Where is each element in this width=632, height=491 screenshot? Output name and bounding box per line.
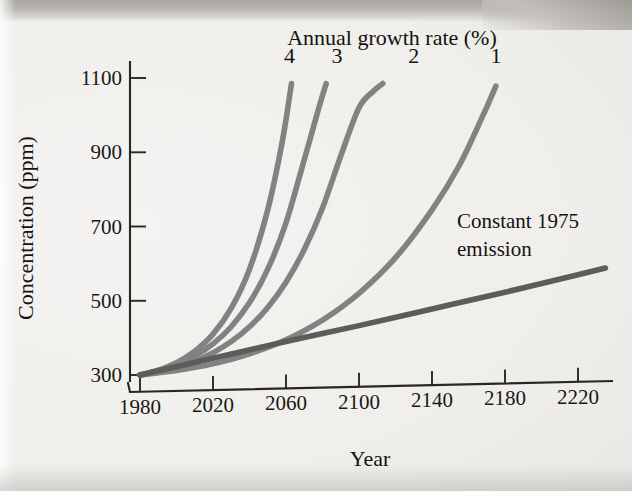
legend-title: Annual growth rate (%) xyxy=(287,25,497,50)
x-tick-label: 1980 xyxy=(119,395,161,419)
y-axis-tick-labels: 3005007009001100 xyxy=(81,66,122,387)
constant-emission-annotation-line2: emission xyxy=(457,237,532,261)
x-axis-title: Year xyxy=(350,446,391,471)
curve-growth-1 xyxy=(140,86,496,375)
y-tick-label: 1100 xyxy=(81,66,122,90)
y-tick-label: 900 xyxy=(91,140,123,164)
y-tick-label: 300 xyxy=(91,363,123,387)
y-tick-label: 700 xyxy=(91,215,123,239)
y-axis-ticks xyxy=(130,78,146,375)
x-tick-label: 2020 xyxy=(192,393,234,417)
y-axis-title: Concentration (ppm) xyxy=(13,136,38,320)
x-tick-label: 2140 xyxy=(411,388,453,412)
x-tick-label: 2100 xyxy=(338,390,380,414)
x-tick-label: 2060 xyxy=(265,391,307,415)
figure-page: 3005007009001100 19802020206021002140218… xyxy=(0,0,632,491)
concentration-vs-year-chart: 3005007009001100 19802020206021002140218… xyxy=(0,0,632,491)
y-tick-label: 500 xyxy=(91,289,123,313)
x-tick-label: 2180 xyxy=(484,386,526,410)
x-tick-label: 2220 xyxy=(557,385,599,409)
constant-emission-annotation-line1: Constant 1975 xyxy=(457,209,579,233)
curve-growth-4 xyxy=(140,84,291,375)
